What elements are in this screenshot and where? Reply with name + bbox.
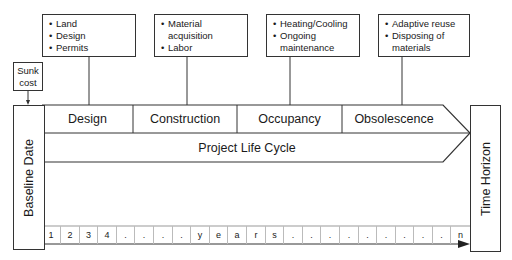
note-item: Heating/Cooling: [273, 18, 355, 30]
note-design-costs: Land Design Permits: [42, 14, 136, 57]
phase-label: Construction: [150, 112, 220, 126]
timeline-cell: 4: [98, 226, 117, 244]
note-item: Labor: [161, 42, 243, 54]
time-horizon-box: Time Horizon: [470, 105, 501, 252]
phase-label: Obsolescence: [354, 112, 433, 126]
timeline-cell: 2: [61, 226, 80, 244]
note-item: Disposing of materials: [385, 30, 465, 54]
timeline-cell: .: [117, 226, 135, 244]
timeline-cell: s: [266, 226, 284, 244]
phase-design: Design: [42, 105, 133, 133]
timeline-cell: .: [414, 226, 433, 244]
timeline-cell: 1: [42, 226, 61, 244]
timeline-cell: .: [433, 226, 451, 244]
timeline-cell: .: [377, 226, 396, 244]
project-life-cycle-band: Project Life Cycle: [42, 133, 452, 162]
sunk-cost-box: Sunk cost: [13, 62, 43, 91]
baseline-date-label: Baseline Date: [22, 139, 36, 217]
timeline-cell: r: [247, 226, 266, 244]
timeline-cell: .: [154, 226, 173, 244]
life-cycle-label: Project Life Cycle: [198, 141, 295, 155]
note-obsolescence-costs: Adaptive reuse Disposing of materials: [378, 14, 470, 57]
note-item: Material acquisition: [161, 18, 243, 42]
timeline-cell: .: [340, 226, 359, 244]
time-horizon-label: Time Horizon: [479, 142, 493, 216]
timeline-cell: n: [451, 226, 470, 244]
sunk-cost-label: Sunk cost: [17, 65, 39, 88]
note-occupancy-costs: Heating/Cooling Ongoing maintenance: [266, 14, 360, 57]
timeline-cell: .: [359, 226, 377, 244]
note-item: Permits: [49, 42, 131, 54]
timeline-cell: 3: [80, 226, 98, 244]
baseline-date-box: Baseline Date: [13, 105, 45, 250]
timeline-cell: a: [228, 226, 247, 244]
timeline-cell: .: [303, 226, 321, 244]
timeline-cell: .: [173, 226, 191, 244]
timeline-cell: .: [321, 226, 340, 244]
timeline-cell: .: [135, 226, 154, 244]
phase-label: Occupancy: [258, 112, 321, 126]
phase-occupancy: Occupancy: [237, 105, 342, 133]
timeline-cell: e: [210, 226, 228, 244]
note-item: Ongoing maintenance: [273, 30, 355, 54]
note-item: Adaptive reuse: [385, 18, 465, 30]
note-item: Design: [49, 30, 131, 42]
note-item: Land: [49, 18, 131, 30]
phase-obsolescence: Obsolescence: [342, 105, 446, 133]
timeline-cell: .: [284, 226, 303, 244]
phase-construction: Construction: [133, 105, 237, 133]
timeline-cell: .: [396, 226, 414, 244]
phase-label: Design: [68, 112, 107, 126]
note-construction-costs: Material acquisition Labor: [154, 14, 248, 57]
timeline-cell: y: [191, 226, 210, 244]
